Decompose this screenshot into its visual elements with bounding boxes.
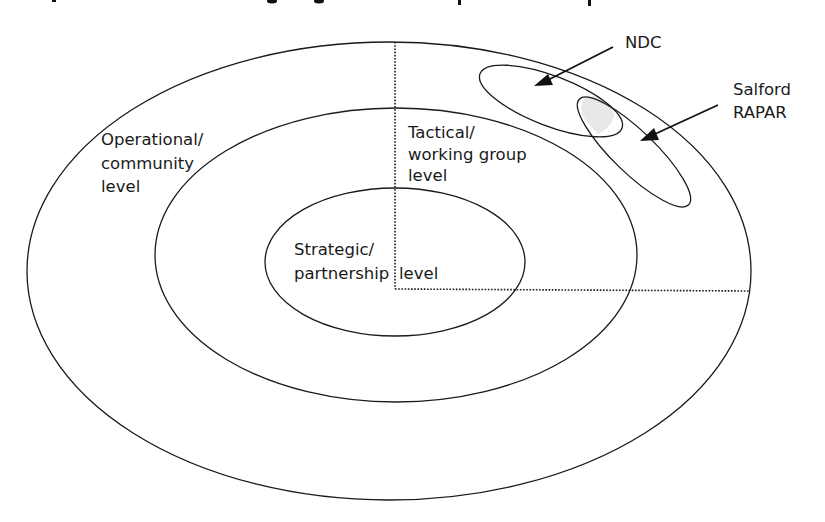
tactical-level-ring <box>155 108 637 402</box>
cropped-title-fragment <box>52 0 591 6</box>
strategic-level-ring <box>265 188 525 336</box>
tactical-level-label: Tactical/ working group level <box>407 123 532 185</box>
strategic-level-label: Strategic/ partnership level <box>294 240 438 283</box>
salford-rapar-label: Salford RAPAR <box>733 80 796 122</box>
salford-arrow-icon <box>640 105 718 141</box>
operational-level-label: Operational/ community level <box>101 130 209 196</box>
horizontal-dotted-divider <box>395 289 750 291</box>
concentric-levels-diagram: Operational/ community level Tactical/ w… <box>0 0 825 522</box>
ndc-arrow-icon <box>534 47 613 86</box>
ndc-label: NDC <box>625 33 662 52</box>
